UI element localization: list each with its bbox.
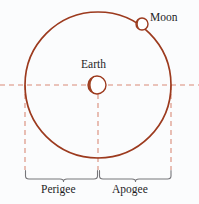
- perigee-bracket: [26, 171, 98, 182]
- diagram-canvas: [0, 0, 199, 204]
- moon-orbit-diagram: Moon Earth Perigee Apogee: [0, 0, 199, 204]
- earth-label: Earth: [81, 59, 106, 71]
- apogee-bracket: [100, 171, 172, 182]
- perigee-label: Perigee: [41, 184, 75, 196]
- moon-label: Moon: [150, 12, 177, 24]
- earth-body: [88, 76, 106, 94]
- moon-body: [136, 18, 148, 30]
- apogee-label: Apogee: [112, 184, 148, 196]
